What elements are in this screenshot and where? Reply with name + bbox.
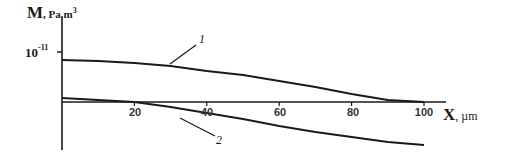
curve-1: [62, 60, 424, 102]
y-axis-label: M, Pa m3: [27, 3, 77, 23]
x-tick-label-60: 60: [274, 106, 286, 118]
curve-1-label: 1: [199, 32, 205, 47]
x-axis-label: X, µm: [443, 105, 478, 125]
x-axis-unit: , µm: [455, 109, 477, 123]
curve-1-leader: [170, 45, 196, 64]
x-tick-label-100: 100: [415, 106, 433, 118]
curve-2: [62, 98, 424, 145]
curve-2-leader: [180, 118, 215, 136]
y-axis-unit: , Pa m3: [43, 8, 77, 20]
x-tick-label-20: 20: [129, 106, 141, 118]
chart-plot: [0, 0, 506, 156]
x-tick-label-40: 40: [201, 106, 213, 118]
y-tick-label: 10-11: [25, 45, 48, 61]
x-tick-label-80: 80: [347, 106, 359, 118]
curve-2-label: 2: [216, 133, 222, 148]
